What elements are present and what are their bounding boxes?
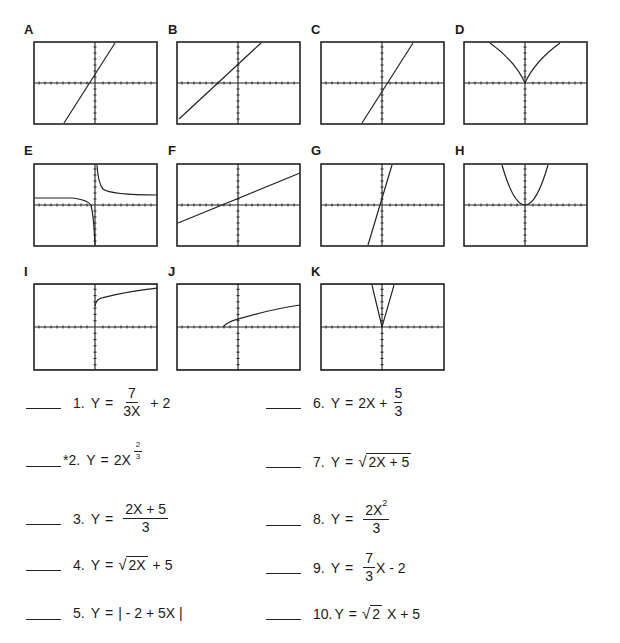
equation-2: *2. Y = 2X 23 bbox=[26, 450, 142, 471]
answer-blank-9[interactable] bbox=[266, 561, 301, 574]
equation-7: 7. Y = √2X + 5 bbox=[266, 453, 411, 470]
graph-label-k: K bbox=[311, 264, 320, 279]
graph-label-g: G bbox=[311, 143, 321, 158]
equation-8: 8. Y = 2X23 bbox=[266, 502, 394, 536]
graph-label-f: F bbox=[168, 143, 176, 158]
equation-9: 9. Y = 73 X - 2 bbox=[266, 551, 406, 585]
equation-5: 5. Y = | - 2 + 5X | bbox=[26, 605, 183, 621]
equation-6: 6. Y = 2X + 53 bbox=[266, 386, 409, 420]
graph-a bbox=[33, 41, 158, 125]
graph-e bbox=[33, 163, 158, 247]
graph-j bbox=[176, 283, 301, 371]
equation-1: 1. Y = 73X + 2 bbox=[26, 386, 175, 420]
answer-blank-8[interactable] bbox=[266, 513, 301, 526]
graph-label-e: E bbox=[24, 143, 33, 158]
graph-label-c: C bbox=[311, 22, 320, 37]
answer-blank-1[interactable] bbox=[26, 396, 61, 409]
graph-i bbox=[33, 283, 158, 371]
sqrt-symbol: √2X + 5 bbox=[358, 453, 411, 470]
graph-label-j: J bbox=[168, 264, 175, 279]
answer-blank-4[interactable] bbox=[26, 558, 61, 571]
graph-label-i: I bbox=[24, 264, 28, 279]
answer-blank-3[interactable] bbox=[26, 512, 61, 525]
equation-10: 10. Y = √2 X + 5 bbox=[266, 605, 425, 622]
answer-blank-7[interactable] bbox=[266, 455, 301, 468]
graph-label-h: H bbox=[455, 143, 464, 158]
graph-d bbox=[463, 41, 588, 125]
equation-3: 3. Y = 2X + 53 bbox=[26, 502, 173, 536]
sqrt-symbol: √2X bbox=[118, 556, 147, 573]
answer-blank-10[interactable] bbox=[266, 607, 301, 620]
graph-label-a: A bbox=[24, 22, 33, 37]
graph-h bbox=[463, 163, 588, 247]
answer-blank-6[interactable] bbox=[266, 396, 301, 409]
graph-c bbox=[320, 41, 445, 125]
sqrt-symbol: √2 bbox=[362, 605, 382, 622]
graph-label-b: B bbox=[168, 22, 177, 37]
equation-4: 4. Y = √2X + 5 bbox=[26, 556, 177, 573]
graph-label-d: D bbox=[455, 22, 464, 37]
graph-k bbox=[320, 283, 445, 371]
graph-g bbox=[320, 163, 445, 247]
answer-blank-2[interactable] bbox=[26, 454, 61, 467]
graph-f bbox=[176, 163, 301, 247]
answer-blank-5[interactable] bbox=[26, 607, 61, 620]
graph-b bbox=[176, 41, 301, 125]
